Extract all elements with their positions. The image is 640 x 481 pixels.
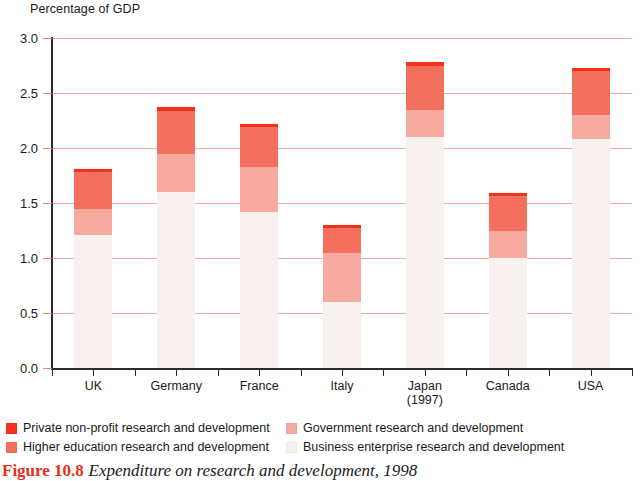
x-tick-mark-center <box>176 368 177 376</box>
bar-canada <box>489 38 527 368</box>
bar-france <box>240 38 278 368</box>
x-tick-mark <box>632 368 633 376</box>
x-tick-mark <box>383 368 384 376</box>
bar-segment-japan-business-enterprise <box>406 137 444 368</box>
x-tick-mark <box>549 368 550 376</box>
x-tick-mark-center <box>93 368 94 376</box>
legend-item-business-enterprise: Business enterprise research and develop… <box>286 440 564 454</box>
x-axis-label-text: USA <box>578 379 604 393</box>
bar-segment-uk-private-non-profit <box>74 169 112 172</box>
y-tick-mark-1.5 <box>43 203 52 204</box>
x-axis-label-italy: Italy <box>297 379 387 393</box>
x-tick-mark-center <box>342 368 343 376</box>
plot-area <box>52 38 632 368</box>
figure-caption: Figure 10.8 Expenditure on research and … <box>2 461 638 480</box>
bar-segment-canada-business-enterprise <box>489 258 527 368</box>
x-axis-label-germany: Germany <box>131 379 221 393</box>
x-axis-label-uk: UK <box>48 379 138 393</box>
y-tick-mark-2.0 <box>43 148 52 149</box>
y-tick-label-3.0: 3.0 <box>6 32 38 45</box>
y-tick-mark-2.5 <box>43 93 52 94</box>
y-tick-mark-1.0 <box>43 258 52 259</box>
y-tick-label-1.0: 1.0 <box>6 252 38 265</box>
bar-segment-germany-business-enterprise <box>157 192 195 368</box>
bar-segment-germany-government <box>157 154 195 193</box>
bar-segment-uk-higher-education <box>74 172 112 208</box>
figure-container: Percentage of GDP UKGermanyFranceItalyJa… <box>0 0 640 481</box>
x-axis-label-france: France <box>214 379 304 393</box>
bar-segment-canada-private-non-profit <box>489 193 527 196</box>
bar-segment-canada-higher-education <box>489 196 527 230</box>
figure-number: Figure 10.8 <box>2 461 84 480</box>
bar-segment-france-business-enterprise <box>240 212 278 368</box>
bar-segment-japan-private-non-profit <box>406 62 444 65</box>
x-tick-mark <box>301 368 302 376</box>
bar-segment-uk-business-enterprise <box>74 235 112 368</box>
legend-label-private-non-profit: Private non-profit research and developm… <box>23 421 270 435</box>
y-tick-label-0.5: 0.5 <box>6 307 38 320</box>
bar-segment-usa-government <box>572 115 610 139</box>
bar-segment-japan-government <box>406 110 444 138</box>
y-tick-label-2.5: 2.5 <box>6 87 38 100</box>
bar-italy <box>323 38 361 368</box>
x-axis-label-text: France <box>240 379 279 393</box>
legend-swatch-private-non-profit <box>6 423 17 434</box>
x-tick-mark-center <box>508 368 509 376</box>
legend-swatch-higher-education <box>6 442 17 453</box>
bar-segment-germany-higher-education <box>157 111 195 154</box>
x-axis-label-canada: Canada <box>463 379 553 393</box>
bar-segment-france-private-non-profit <box>240 124 278 127</box>
bar-segment-japan-higher-education <box>406 66 444 110</box>
y-tick-label-2.0: 2.0 <box>6 142 38 155</box>
legend-swatch-business-enterprise <box>286 442 297 453</box>
y-tick-mark-3.0 <box>43 38 52 39</box>
bar-segment-uk-government <box>74 209 112 235</box>
x-axis-label-text: UK <box>85 379 102 393</box>
x-tick-mark <box>52 368 53 376</box>
bar-japan <box>406 38 444 368</box>
legend-label-higher-education: Higher education research and developmen… <box>23 440 269 454</box>
legend-item-higher-education: Higher education research and developmen… <box>6 440 269 454</box>
x-tick-mark <box>135 368 136 376</box>
x-axis-sublabel-text: (1997) <box>380 393 470 407</box>
bar-segment-germany-private-non-profit <box>157 107 195 110</box>
bar-segment-italy-business-enterprise <box>323 302 361 368</box>
y-tick-mark-0.0 <box>43 368 52 369</box>
bar-segment-usa-higher-education <box>572 71 610 115</box>
legend-label-business-enterprise: Business enterprise research and develop… <box>303 440 564 454</box>
bar-segment-france-government <box>240 167 278 212</box>
x-axis-label-japan: Japan(1997) <box>380 379 470 407</box>
x-axis: UKGermanyFranceItalyJapan(1997)CanadaUSA <box>52 368 632 408</box>
bar-segment-france-higher-education <box>240 127 278 167</box>
bar-germany <box>157 38 195 368</box>
x-tick-mark <box>466 368 467 376</box>
legend-item-government: Government research and development <box>286 421 523 435</box>
legend-label-government: Government research and development <box>303 421 523 435</box>
x-tick-mark-center <box>425 368 426 376</box>
bar-uk <box>74 38 112 368</box>
bar-segment-usa-business-enterprise <box>572 139 610 368</box>
bar-segment-italy-government <box>323 253 361 303</box>
x-tick-mark-center <box>591 368 592 376</box>
bar-segment-canada-government <box>489 231 527 259</box>
legend-swatch-government <box>286 423 297 434</box>
y-axis-title: Percentage of GDP <box>30 2 140 16</box>
chart-legend: Private non-profit research and developm… <box>6 421 640 459</box>
x-axis-label-text: Italy <box>331 379 354 393</box>
x-axis-label-text: Japan <box>408 379 442 393</box>
y-tick-label-0.0: 0.0 <box>6 362 38 375</box>
bar-segment-usa-private-non-profit <box>572 68 610 71</box>
bar-segment-italy-private-non-profit <box>323 225 361 228</box>
y-tick-label-1.5: 1.5 <box>6 197 38 210</box>
bar-segment-italy-higher-education <box>323 228 361 252</box>
figure-caption-text: Expenditure on research and development,… <box>89 461 418 480</box>
bar-usa <box>572 38 610 368</box>
x-axis-label-text: Germany <box>151 379 202 393</box>
y-tick-mark-0.5 <box>43 313 52 314</box>
x-tick-mark <box>218 368 219 376</box>
x-axis-label-usa: USA <box>546 379 636 393</box>
x-axis-label-text: Canada <box>486 379 530 393</box>
legend-item-private-non-profit: Private non-profit research and developm… <box>6 421 270 435</box>
x-tick-mark-center <box>259 368 260 376</box>
